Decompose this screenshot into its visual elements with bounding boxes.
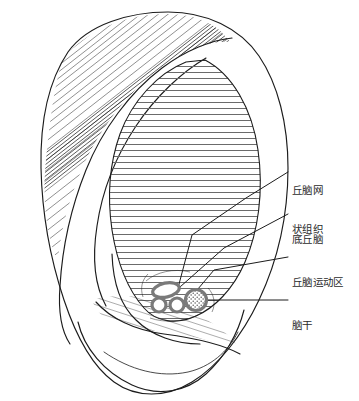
earlobe-contour [78, 310, 244, 392]
label-line-1: 丘脑网 [292, 184, 323, 197]
marker-circle-left [152, 298, 166, 312]
label-line-1: 丘脑运动区 [292, 276, 344, 289]
label-brainstem: 脑干 [292, 294, 313, 357]
label-line-1: 脑干 [292, 319, 313, 332]
label-line-1: 底丘脑 [292, 233, 323, 246]
marker-circle-right [170, 298, 184, 312]
earlobe-fold [104, 332, 238, 374]
marker-stippled-circle [186, 290, 207, 311]
antihelix-shading [0, 0, 81, 365]
ear-anatomy-figure: 丘脑网 状组织 底丘脑 丘脑运动区 脑干 [0, 0, 359, 401]
